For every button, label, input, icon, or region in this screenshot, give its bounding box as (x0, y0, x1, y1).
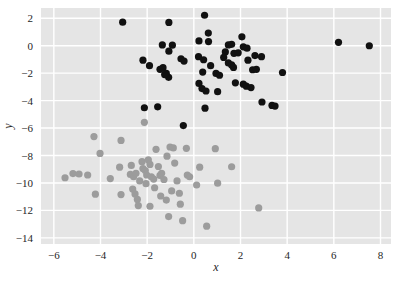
y-tick-label-6: −10 (16, 177, 34, 189)
data-point (170, 144, 177, 151)
x-tick-label-1: −4 (95, 249, 107, 261)
data-point (165, 213, 172, 220)
data-point (186, 173, 193, 180)
x-tick-label-6: 6 (331, 249, 337, 261)
data-point (146, 62, 153, 69)
data-point (258, 53, 265, 60)
data-point (61, 174, 68, 181)
y-axis-title: y (1, 123, 15, 130)
data-point (180, 122, 187, 129)
data-point (199, 68, 206, 75)
data-point (135, 202, 142, 209)
data-point (177, 201, 184, 208)
data-point (193, 181, 200, 188)
data-point (139, 57, 146, 64)
y-tick-label-1: 0 (28, 40, 34, 52)
data-point (212, 145, 219, 152)
data-point (152, 146, 159, 153)
data-point (214, 180, 221, 187)
y-tick-label-0: 2 (28, 12, 34, 24)
data-point (195, 37, 202, 44)
data-point (183, 145, 190, 152)
data-point (247, 84, 254, 91)
x-tick-label-5: 4 (284, 249, 290, 261)
data-point (176, 190, 183, 197)
x-tick-label-7: 8 (378, 249, 384, 261)
data-point (128, 162, 135, 169)
data-point (279, 69, 286, 76)
data-point (117, 191, 124, 198)
data-point (202, 87, 209, 94)
data-point (228, 163, 235, 170)
data-point (180, 58, 187, 65)
data-point (163, 153, 170, 160)
data-point (146, 203, 153, 210)
y-tick-label-3: −4 (21, 95, 33, 107)
x-tick-label-2: −2 (141, 249, 153, 261)
data-point (244, 57, 251, 64)
data-point (134, 196, 141, 203)
data-point (117, 137, 124, 144)
data-point (154, 103, 161, 110)
data-point (107, 175, 114, 182)
data-point (201, 12, 208, 19)
data-point (157, 192, 164, 199)
data-point (119, 19, 126, 26)
data-point (132, 170, 139, 177)
data-point (116, 164, 123, 171)
data-point (220, 54, 227, 61)
data-point (207, 62, 214, 69)
x-tick-label-4: 2 (238, 249, 244, 261)
y-tick-label-8: −14 (16, 232, 34, 244)
y-tick-label-7: −12 (16, 204, 33, 216)
data-point (161, 71, 168, 78)
scatter-plot-figure: −6−4−202468 20−2−4−6−8−10−12−14 x y (0, 0, 406, 287)
data-point (75, 170, 82, 177)
data-point (255, 204, 262, 211)
data-point (214, 88, 221, 95)
data-point (155, 163, 162, 170)
data-point (150, 176, 157, 183)
data-point (173, 177, 180, 184)
data-point (201, 105, 208, 112)
data-point (141, 104, 148, 111)
data-point (151, 184, 158, 191)
data-point (171, 159, 178, 166)
data-point (165, 19, 172, 26)
data-point (179, 217, 186, 224)
data-point (142, 180, 149, 187)
data-point (141, 119, 148, 126)
data-point (92, 191, 99, 198)
x-tick-label-3: 0 (191, 249, 197, 261)
data-point (158, 170, 165, 177)
data-point (169, 42, 176, 49)
data-point (258, 98, 265, 105)
data-point (366, 42, 373, 49)
data-point (203, 223, 210, 230)
data-point (216, 72, 223, 79)
data-point (230, 64, 237, 71)
x-tick-label-0: −6 (48, 249, 60, 261)
data-point (235, 49, 242, 56)
data-point (165, 48, 172, 55)
data-point (160, 176, 167, 183)
data-point (200, 56, 207, 63)
data-point (335, 39, 342, 46)
data-point (253, 66, 260, 73)
data-point (228, 41, 235, 48)
plot-canvas: −6−4−202468 20−2−4−6−8−10−12−14 x y (0, 0, 406, 287)
data-point (138, 158, 145, 165)
data-point (96, 150, 103, 157)
data-point (196, 164, 203, 171)
y-tick-label-2: −2 (21, 67, 33, 79)
data-point (251, 52, 258, 59)
data-point (243, 45, 250, 52)
data-point (136, 177, 143, 184)
data-point (205, 38, 212, 45)
data-point (232, 79, 239, 86)
data-point (146, 161, 153, 168)
data-point (84, 171, 91, 178)
y-tick-label-4: −6 (21, 122, 33, 134)
data-point (271, 103, 278, 110)
data-point (159, 41, 166, 48)
